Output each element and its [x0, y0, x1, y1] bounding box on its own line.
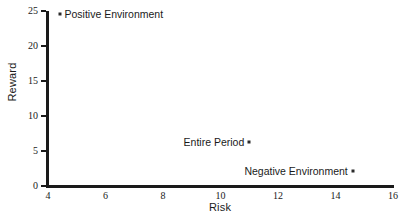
y-axis-line — [46, 11, 49, 188]
data-point-marker — [351, 170, 354, 173]
y-axis-tick — [41, 150, 46, 152]
data-point-marker — [248, 140, 251, 143]
x-axis-tick-label: 4 — [36, 190, 60, 201]
y-axis-tick-label: 25 — [16, 5, 38, 16]
x-axis-line — [46, 185, 394, 188]
risk-reward-scatter-chart: 0510152025 46810121416 Positive Environm… — [0, 0, 410, 219]
y-axis-tick-label: 5 — [16, 145, 38, 156]
y-axis-tick — [41, 185, 46, 187]
data-point-label: Negative Environment — [244, 165, 347, 177]
y-axis-tick — [41, 10, 46, 12]
y-axis-tick — [41, 115, 46, 117]
x-axis-tick-label: 14 — [324, 190, 348, 201]
y-axis-tick-label: 0 — [16, 180, 38, 191]
y-axis-title: Reward — [6, 52, 18, 112]
x-axis-tick-label: 10 — [209, 190, 233, 201]
data-point-label: Entire Period — [184, 136, 245, 148]
x-axis-tick-label: 12 — [266, 190, 290, 201]
y-axis-tick-label: 10 — [16, 110, 38, 121]
data-point-marker — [58, 12, 61, 15]
y-axis-tick — [41, 80, 46, 82]
x-axis-tick-label: 16 — [381, 190, 405, 201]
x-axis-tick-label: 8 — [151, 190, 175, 201]
y-axis-tick — [41, 45, 46, 47]
x-axis-tick-label: 6 — [94, 190, 118, 201]
y-axis-tick-label: 15 — [16, 75, 38, 86]
data-point-label: Positive Environment — [65, 8, 164, 20]
x-axis-title: Risk — [0, 201, 410, 213]
x-axis-title-text: Risk — [179, 201, 231, 213]
y-axis-tick-label: 20 — [16, 40, 38, 51]
